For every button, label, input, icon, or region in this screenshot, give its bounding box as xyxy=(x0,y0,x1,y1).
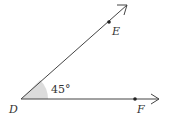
label-d: D xyxy=(8,103,18,116)
angle-diagram: E F D 45° xyxy=(0,0,170,126)
label-f: F xyxy=(136,103,145,116)
point-f-dot xyxy=(133,97,137,101)
angle-wedge xyxy=(21,80,48,99)
label-e: E xyxy=(111,25,120,38)
angle-measure-label: 45° xyxy=(51,83,71,96)
ray-de xyxy=(21,5,127,99)
point-e-dot xyxy=(107,20,111,24)
